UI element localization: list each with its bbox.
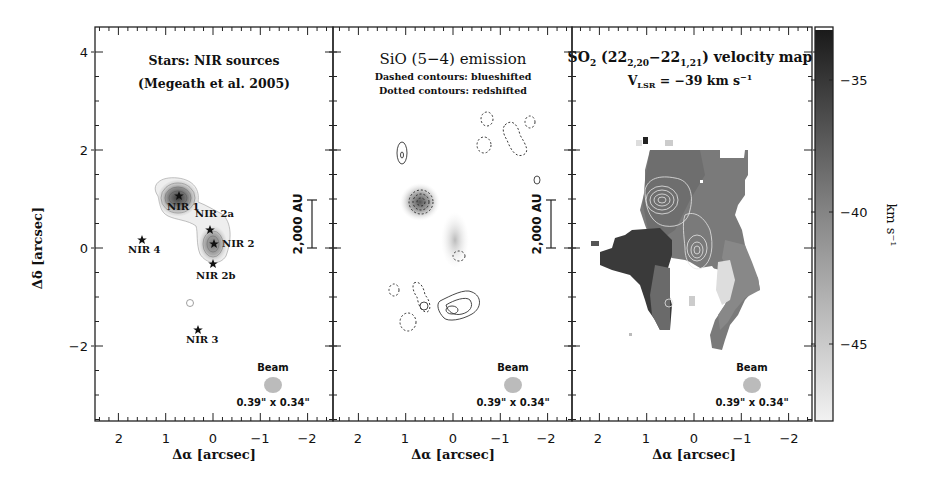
x-tick: −2	[779, 431, 798, 446]
colorbar-tick-neg45: −45	[840, 337, 867, 352]
panel2-title: SiO (5−4) emission	[379, 50, 526, 68]
x-tick: −2	[536, 431, 555, 446]
y-tick-4: 4	[80, 45, 88, 60]
source-label-nir2: NIR 2	[222, 238, 255, 249]
beam-ellipse-p2	[504, 377, 522, 393]
x-tick: 2	[115, 431, 123, 446]
x-axis-p1: 2 1 0 −1 −2 Δα [arcsec]	[115, 431, 317, 462]
x-axis-label-p1: Δα [arcsec]	[172, 447, 256, 462]
colorbar-tick-neg35: −35	[840, 73, 867, 88]
source-label-nir2a: NIR 2a	[195, 208, 235, 219]
scale-bar-2000au-p1: 2,000 AU	[291, 194, 317, 255]
x-axis-p2: 2 1 0 −1 −2 Δα [arcsec]	[354, 431, 556, 462]
panel3-vlsr: VLSR = −39 km s−1	[627, 72, 753, 90]
y-axis-label: Δδ [arcsec]	[30, 207, 45, 289]
panel1-title-line2: (Megeath et al. 2005)	[138, 76, 290, 91]
x-tick: 0	[209, 431, 217, 446]
sio-blueshifted-contours	[397, 142, 540, 320]
panel3-title: SO2 (222,20−221,21) velocity map	[568, 49, 813, 69]
x-axis-p3: 2 1 0 −1 −2 Δα [arcsec]	[594, 431, 799, 462]
x-tick: 1	[401, 431, 409, 446]
scale-bar-label: 2,000 AU	[291, 194, 305, 255]
x-tick: −1	[250, 431, 269, 446]
colorbar: −35 −40 −45 km s⁻¹	[811, 27, 899, 421]
x-axis-label-p2: Δα [arcsec]	[411, 447, 495, 462]
so2-velocity-map	[591, 137, 760, 350]
panel2-subtitle-dashed: Dashed contours: blueshifted	[375, 71, 532, 82]
x-tick: −1	[490, 431, 509, 446]
x-tick: 0	[449, 431, 457, 446]
panel-nir: NIR 1 NIR 2a NIR 2 NIR 2b NIR 4 NIR 3 2,…	[128, 53, 317, 408]
star-icon-nir3	[193, 325, 203, 334]
colorbar-label: km s⁻¹	[884, 203, 899, 246]
source-label-nir4: NIR 4	[128, 244, 161, 255]
panel-so2: SO2 (222,20−221,21) velocity map VLSR = …	[568, 49, 813, 408]
x-tick: −2	[297, 431, 316, 446]
star-icon-nir4	[137, 235, 147, 244]
x-tick: 2	[354, 431, 362, 446]
x-tick: 1	[642, 431, 650, 446]
figure: Δδ [arcsec] 4 2 0 −2 NIR 1 NIR 2a NIR 2 …	[0, 0, 925, 484]
x-axis-label-p3: Δα [arcsec]	[652, 447, 736, 462]
scale-bar-2000au-p2: 2,000 AU	[530, 194, 556, 255]
source-label-nir2b: NIR 2b	[196, 270, 236, 281]
panel-sio: 2,000 AU SiO (5−4) emission Dashed conto…	[375, 50, 556, 408]
nir-continuum-contours	[155, 178, 230, 307]
beam-size-p2: 0.39" x 0.34"	[476, 397, 549, 408]
beam-size-p3: 0.39" x 0.34"	[715, 397, 788, 408]
colorbar-tick-neg40: −40	[840, 205, 867, 220]
x-tick: −1	[732, 431, 751, 446]
beam-ellipse-p1	[264, 377, 282, 393]
x-tick: 2	[594, 431, 602, 446]
beam-label-p1: Beam	[257, 362, 289, 373]
panel1-title-line1: Stars: NIR sources	[148, 53, 279, 68]
y-tick-2: 2	[80, 143, 88, 158]
source-label-nir3: NIR 3	[186, 334, 219, 345]
x-tick: 0	[690, 431, 698, 446]
beam-label-p2: Beam	[497, 362, 529, 373]
scale-bar-label: 2,000 AU	[530, 194, 544, 255]
beam-size-p1: 0.39" x 0.34"	[236, 397, 309, 408]
beam-label-p3: Beam	[736, 362, 768, 373]
x-tick: 1	[162, 431, 170, 446]
beam-ellipse-p3	[743, 377, 761, 393]
y-tick-neg2: −2	[69, 339, 88, 354]
panel2-subtitle-dotted: Dotted contours: redshifted	[379, 85, 527, 96]
y-tick-0: 0	[80, 241, 88, 256]
